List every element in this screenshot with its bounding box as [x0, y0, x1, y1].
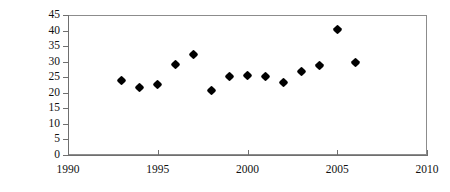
y-axis-tick — [63, 31, 68, 32]
y-axis-tick-label: 40 — [30, 25, 60, 36]
y-axis-tick-label: 25 — [30, 71, 60, 82]
y-axis-tick — [63, 139, 68, 140]
y-axis-tick-label: 15 — [30, 102, 60, 113]
x-axis-tick-label: 1995 — [135, 163, 181, 175]
y-axis-tick — [63, 108, 68, 109]
y-axis-tick-label: 5 — [30, 133, 60, 144]
x-axis-tick-label: 2000 — [225, 163, 271, 175]
y-axis-tick-label: 30 — [30, 56, 60, 67]
y-axis-tick-label: 20 — [30, 87, 60, 98]
y-axis-tick — [63, 62, 68, 63]
x-axis-line — [64, 155, 428, 156]
y-axis-line — [68, 15, 69, 156]
x-axis-tick-label: 2010 — [404, 163, 450, 175]
y-axis-tick — [63, 124, 68, 125]
y-axis-tick-label: 45 — [30, 9, 60, 20]
x-axis-tick — [68, 150, 69, 156]
x-axis-tick-label: 1990 — [45, 163, 91, 175]
y-axis-tick — [63, 46, 68, 47]
y-axis-tick — [63, 93, 68, 94]
x-axis-tick — [427, 150, 428, 156]
y-axis-tick — [63, 77, 68, 78]
x-axis-tick-label: 2005 — [314, 163, 360, 175]
x-axis-tick — [158, 150, 159, 156]
scatter-chart: kg/capita 454035302520151050 19901995200… — [0, 0, 450, 192]
x-axis-tick — [337, 150, 338, 156]
y-axis-tick-label: 35 — [30, 40, 60, 51]
y-axis-tick-label: 10 — [30, 118, 60, 129]
y-axis-tick-label: 0 — [30, 149, 60, 160]
x-axis-tick — [248, 150, 249, 156]
y-axis-tick — [63, 15, 68, 16]
